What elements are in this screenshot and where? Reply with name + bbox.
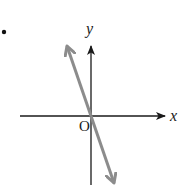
graph-line [67, 46, 91, 116]
y-axis-label: y [84, 20, 94, 38]
origin-label: O [79, 118, 90, 134]
coordinate-diagram: y x O [0, 0, 190, 189]
x-axis-label: x [169, 107, 177, 124]
graph-line-lower [91, 116, 114, 183]
bullet-dot [2, 30, 6, 34]
